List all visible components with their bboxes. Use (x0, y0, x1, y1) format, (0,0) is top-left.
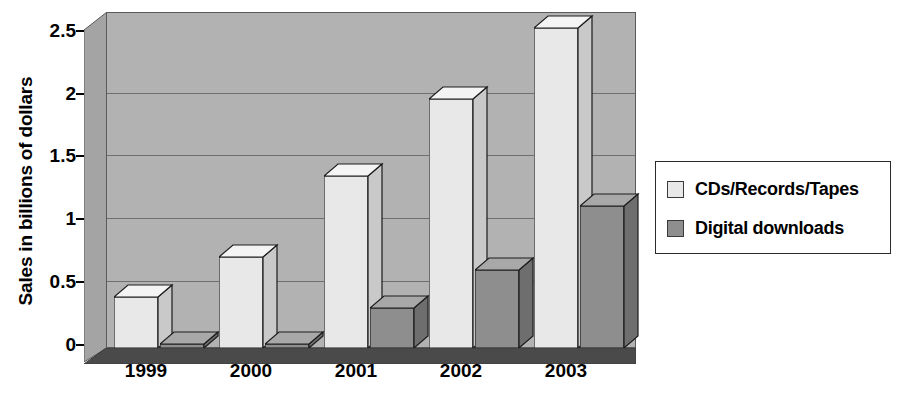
bar-1999-downloads (160, 12, 204, 348)
y-tick-label-0: 0 (20, 335, 76, 354)
legend-item-downloads: Digital downloads (667, 215, 844, 241)
bar-2002-cds (429, 12, 473, 348)
y-axis-ticks: 2.5 2 1.5 1 0.5 0 (20, 0, 76, 396)
bar-2003-cds (534, 12, 578, 348)
x-label-2000: 2000 (211, 360, 291, 382)
legend-label-downloads: Digital downloads (695, 218, 844, 239)
x-label-2001: 2001 (316, 360, 396, 382)
bar-2002-downloads (475, 12, 519, 348)
bar-1999-cds (114, 12, 158, 348)
bar-3d-1999-downloads (160, 12, 220, 348)
y-tick-label-2: 2 (20, 84, 76, 103)
y-tick-label-2-5: 2.5 (20, 21, 76, 40)
bar-2000-downloads (265, 12, 309, 348)
bar-2001-downloads (370, 12, 414, 348)
x-label-1999: 1999 (106, 360, 186, 382)
x-label-2003: 2003 (526, 360, 606, 382)
x-axis-labels: 1999 2000 2001 2002 2003 (84, 360, 636, 392)
plot-area (84, 12, 636, 362)
bar-chart: Sales in billions of dollars 2.5 2 1.5 1… (0, 0, 905, 396)
chart-legend: CDs/Records/Tapes Digital downloads (655, 161, 891, 254)
x-label-2002: 2002 (421, 360, 501, 382)
bar-3d-2002-downloads (475, 12, 535, 348)
y-tick-label-1-5: 1.5 (20, 146, 76, 165)
legend-swatch-cds-icon (667, 181, 684, 198)
bars-layer (84, 12, 636, 362)
y-tick-label-1: 1 (20, 209, 76, 228)
bar-2003-downloads (580, 12, 624, 348)
bar-2001-cds (324, 12, 368, 348)
legend-item-cds: CDs/Records/Tapes (667, 176, 859, 202)
legend-label-cds: CDs/Records/Tapes (695, 179, 859, 200)
bar-2000-cds (219, 12, 263, 348)
legend-swatch-downloads-icon (667, 220, 684, 237)
bar-3d-2001-downloads (370, 12, 430, 348)
bar-3d-2000-downloads (265, 12, 325, 348)
y-tick-label-0-5: 0.5 (20, 272, 76, 291)
bar-3d-2003-downloads (580, 12, 640, 348)
